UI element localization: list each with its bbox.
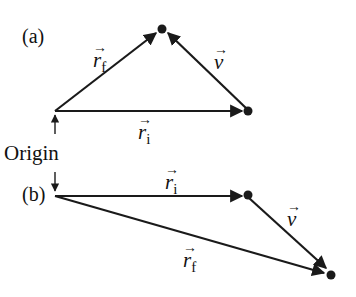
point-initial-b [244,191,253,200]
label-r-initial-b: → ri [165,172,177,193]
point-initial-a [244,107,253,116]
point-final-a [158,25,167,34]
vector-arrow-icon: → [287,200,301,214]
panel-b-label: (b) [22,184,45,204]
vector-arrow-icon: → [93,41,107,55]
label-r-initial-a: → ri [138,122,150,143]
vector-arrow-icon: → [183,241,197,255]
origin-label: Origin [4,143,59,164]
label-v-a: → v [214,52,223,73]
vector-arrow-icon: → [138,113,152,127]
vector-arrow-icon: → [165,163,179,177]
vector-v-a [168,33,247,109]
label-r-final-a: → rf [93,50,106,71]
label-v-b: → v [287,209,296,230]
vector-arrow-icon: → [214,43,228,57]
label-r-final-b: → rf [183,250,196,271]
panel-a-label: (a) [22,26,44,46]
point-final-b [327,271,336,280]
